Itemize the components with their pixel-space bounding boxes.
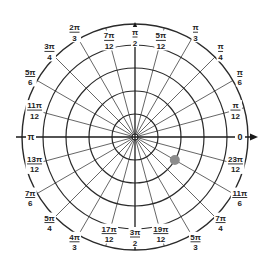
angle-label-15: π12 xyxy=(229,100,242,121)
angle-label-270: 3π2 xyxy=(129,227,142,248)
polar-coordinate-grid: 0 π π12π6π4π35π12π27π122π33π45π611π1213π… xyxy=(0,0,270,269)
angle-label-denominator: 6 xyxy=(238,199,243,208)
angle-label-210: 7π6 xyxy=(24,188,37,209)
angle-label-120: 2π3 xyxy=(68,22,81,43)
label-zero: 0 xyxy=(237,132,242,142)
angle-label-numerator: π xyxy=(217,42,223,51)
angle-label-numerator: 3π xyxy=(130,228,141,237)
angle-label-300: 5π3 xyxy=(189,232,202,253)
angle-label-255: 17π12 xyxy=(100,224,118,245)
angle-label-numerator: 5π xyxy=(44,214,55,223)
angle-label-denominator: 3 xyxy=(193,243,198,252)
angle-label-denominator: 4 xyxy=(218,53,223,62)
angle-label-numerator: 11π xyxy=(232,189,247,198)
angle-label-denominator: 2 xyxy=(133,239,138,248)
angle-label-denominator: 12 xyxy=(105,235,114,244)
angle-label-30: π6 xyxy=(236,67,244,88)
angle-label-345: 23π12 xyxy=(226,154,244,175)
angle-label-285: 19π12 xyxy=(152,224,170,245)
angle-label-denominator: 3 xyxy=(72,34,77,43)
angle-label-135: 3π4 xyxy=(43,41,56,62)
angle-label-150: 5π6 xyxy=(24,67,37,88)
angle-label-240: 4π3 xyxy=(68,232,81,253)
angle-label-numerator: 13π xyxy=(27,155,42,164)
angle-label-denominator: 12 xyxy=(30,112,39,121)
angle-label-denominator: 12 xyxy=(156,235,165,244)
angle-label-denominator: 4 xyxy=(47,53,52,62)
angle-label-315: 7π4 xyxy=(214,213,227,234)
angle-label-numerator: 7π xyxy=(215,214,226,223)
angle-label-90: π2 xyxy=(131,27,139,48)
angle-label-numerator: π xyxy=(132,28,138,37)
label-pi: π xyxy=(28,132,35,142)
arrow-right-icon xyxy=(250,134,258,141)
angle-label-denominator: 6 xyxy=(28,78,33,87)
angle-label-numerator: 5π xyxy=(25,68,36,77)
angle-label-195: 13π12 xyxy=(26,154,44,175)
angle-label-numerator: 4π xyxy=(69,233,80,242)
plotted-point xyxy=(170,155,180,165)
angle-label-numerator: 5π xyxy=(190,233,201,242)
angle-label-330: 11π6 xyxy=(231,188,249,209)
angle-label-numerator: 17π xyxy=(102,225,117,234)
angle-label-denominator: 4 xyxy=(47,224,52,233)
angle-label-105: 7π12 xyxy=(103,30,116,51)
angle-label-denominator: 4 xyxy=(218,224,223,233)
angle-label-numerator: 11π xyxy=(27,101,42,110)
angle-label-75: 5π12 xyxy=(154,30,167,51)
angle-label-numerator: 7π xyxy=(104,31,115,40)
angle-label-denominator: 2 xyxy=(133,39,138,48)
angle-label-numerator: π xyxy=(237,68,243,77)
angle-label-165: 11π12 xyxy=(26,100,44,121)
angle-label-denominator: 12 xyxy=(231,112,240,121)
angle-label-numerator: 3π xyxy=(44,42,55,51)
angle-label-numerator: π xyxy=(232,101,238,110)
angle-label-denominator: 12 xyxy=(30,165,39,174)
angle-label-numerator: 19π xyxy=(153,225,168,234)
angle-label-60: π3 xyxy=(192,22,200,43)
angle-label-denominator: 12 xyxy=(231,165,240,174)
angle-label-denominator: 3 xyxy=(193,34,198,43)
angle-label-denominator: 12 xyxy=(105,42,114,51)
spoke-15 xyxy=(135,108,244,137)
angle-label-denominator: 6 xyxy=(28,199,33,208)
angle-label-denominator: 6 xyxy=(238,78,243,87)
angle-label-numerator: 5π xyxy=(156,31,167,40)
angle-label-numerator: π xyxy=(192,23,198,32)
angle-label-numerator: 2π xyxy=(69,23,80,32)
angle-label-45: π4 xyxy=(217,41,225,62)
angle-label-numerator: 23π xyxy=(228,155,243,164)
angle-label-denominator: 3 xyxy=(72,243,77,252)
angle-label-numerator: 7π xyxy=(25,189,36,198)
angle-label-denominator: 12 xyxy=(156,42,165,51)
angle-label-225: 5π4 xyxy=(43,213,56,234)
